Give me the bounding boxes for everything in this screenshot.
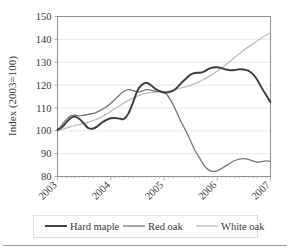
y-tick-label: 100 bbox=[36, 125, 52, 136]
index-line-chart: 8090100110120130140150 20032004200520062… bbox=[0, 0, 290, 250]
legend-label-red-oak: Red oak bbox=[148, 221, 183, 232]
y-tick-label: 140 bbox=[36, 34, 52, 45]
y-tick-label: 120 bbox=[36, 80, 52, 91]
chart-figure: 8090100110120130140150 20032004200520062… bbox=[0, 0, 290, 250]
chart-legend: Hard mapleRed oakWhite oak bbox=[34, 216, 266, 238]
y-tick-label: 130 bbox=[36, 57, 52, 68]
y-tick-label: 90 bbox=[41, 148, 52, 159]
y-tick-label: 150 bbox=[36, 11, 52, 22]
legend-label-white-oak: White oak bbox=[221, 221, 265, 232]
y-tick-label: 110 bbox=[36, 103, 51, 114]
legend-label-hard-maple: Hard maple bbox=[70, 221, 120, 232]
y-axis-title: Index (2003=100) bbox=[6, 56, 19, 136]
